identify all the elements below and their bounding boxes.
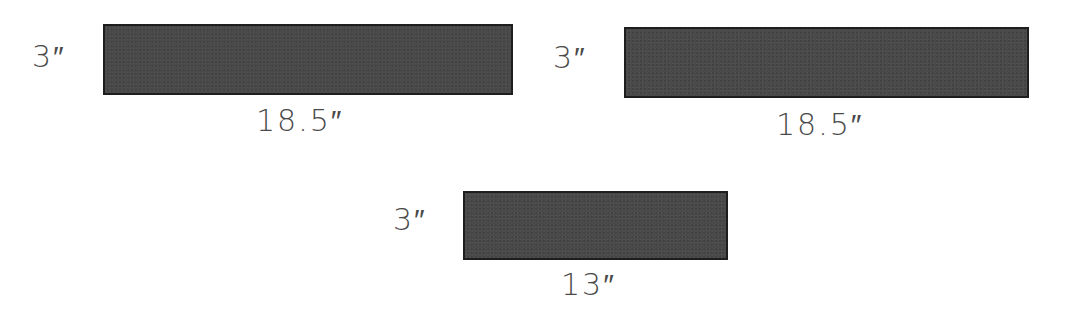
piece-2-width-label: 18.5″	[776, 110, 863, 140]
piece-1-width-label: 18.5″	[256, 106, 343, 136]
piece-2-rectangle	[624, 27, 1029, 98]
piece-1-rectangle	[103, 24, 513, 95]
piece-2-height-label: 3″	[553, 43, 587, 73]
piece-3-rectangle	[463, 191, 728, 260]
piece-1-height-label: 3″	[32, 42, 66, 72]
piece-3-height-label: 3″	[393, 205, 427, 235]
piece-3-width-label: 13″	[561, 270, 616, 300]
